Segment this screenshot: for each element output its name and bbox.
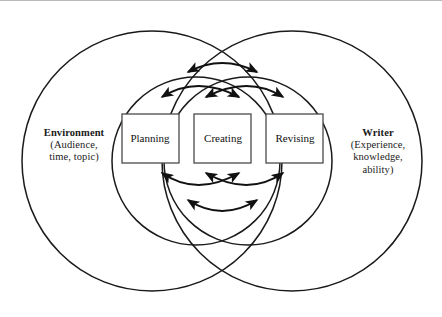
writer-title: Writer: [330, 127, 426, 139]
stage-label-creating: Creating: [193, 133, 253, 144]
writer-detail-line-2: knowledge,: [330, 151, 426, 163]
stage-label-planning: Planning: [120, 133, 180, 144]
writing-process-diagram: Planning Creating Revising Environment (…: [0, 0, 442, 317]
environment-title: Environment: [26, 127, 122, 139]
environment-detail-line-2: time, topic): [26, 151, 122, 163]
writer-detail-line-1: (Experience,: [330, 139, 426, 151]
stage-label-revising: Revising: [265, 133, 325, 144]
arrow-planning-revising-below: [188, 200, 257, 211]
environment-label: Environment (Audience, time, topic): [26, 127, 122, 164]
environment-detail-line-1: (Audience,: [26, 139, 122, 151]
writer-label: Writer (Experience, knowledge, ability): [330, 127, 426, 176]
writer-detail-line-3: ability): [330, 164, 426, 176]
